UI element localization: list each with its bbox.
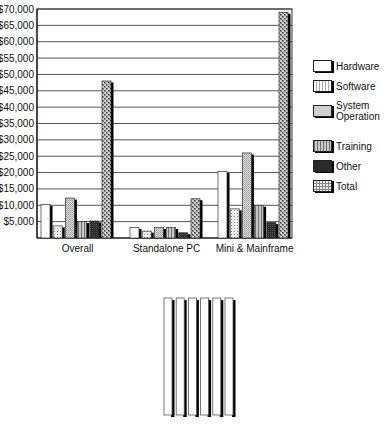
legend-item-system-operation: System Operation bbox=[313, 100, 380, 122]
legend-swatch-hardware bbox=[313, 60, 332, 72]
x-category-label: Overall bbox=[62, 243, 94, 254]
bars bbox=[41, 12, 291, 238]
legend-label: System Operation bbox=[336, 100, 380, 122]
legend-item-hardware: Hardware bbox=[313, 60, 379, 72]
bottom-figure-bars bbox=[164, 298, 236, 417]
y-tick-label: $10,000 bbox=[0, 200, 34, 211]
y-tick-label: $70,000 bbox=[0, 4, 34, 15]
bar bbox=[167, 228, 176, 238]
legend-label: Total bbox=[336, 181, 357, 192]
y-tick-label: $60,000 bbox=[0, 36, 34, 47]
legend-swatch-other bbox=[313, 160, 332, 172]
legend-label: Hardware bbox=[336, 61, 379, 72]
legend-label: Training bbox=[336, 141, 372, 152]
bar bbox=[102, 81, 111, 238]
bar bbox=[41, 204, 50, 238]
bar bbox=[230, 209, 239, 238]
bottom-bar bbox=[188, 298, 196, 415]
bar bbox=[255, 205, 264, 238]
bar bbox=[78, 222, 87, 238]
y-tick-label: $50,000 bbox=[0, 69, 34, 80]
y-tick-label: $15,000 bbox=[0, 183, 34, 194]
y-tick-label: $55,000 bbox=[0, 53, 34, 64]
bar bbox=[191, 199, 200, 238]
chart-container: $5,000$10,000$15,000$20,000$25,000$30,00… bbox=[0, 0, 389, 435]
bottom-bar bbox=[176, 298, 184, 415]
bottom-bar bbox=[225, 298, 233, 415]
legend-swatch-total bbox=[313, 180, 332, 192]
legend-item-other: Other bbox=[313, 160, 361, 172]
bar bbox=[179, 233, 188, 238]
bar bbox=[154, 228, 163, 238]
legend-swatch-system-operation bbox=[313, 105, 332, 117]
x-category-label: Standalone PC bbox=[133, 243, 200, 254]
y-tick-label: $65,000 bbox=[0, 20, 34, 31]
y-tick-label: $25,000 bbox=[0, 151, 34, 162]
legend-label: Software bbox=[336, 81, 375, 92]
legend-label-line2: Operation bbox=[336, 111, 380, 122]
bottom-bar bbox=[201, 298, 209, 415]
y-tick-label: $40,000 bbox=[0, 102, 34, 113]
y-tick-label: $45,000 bbox=[0, 85, 34, 96]
x-axis-category-labels: OverallStandalone PCMini & Mainframe bbox=[62, 243, 294, 254]
legend-label-line1: System bbox=[336, 100, 369, 111]
legend-item-software: Software bbox=[313, 80, 375, 92]
legend-swatch-training bbox=[313, 140, 332, 152]
y-tick-label: $35,000 bbox=[0, 118, 34, 129]
bar bbox=[65, 198, 74, 238]
x-category-label: Mini & Mainframe bbox=[216, 243, 294, 254]
legend-item-total: Total bbox=[313, 180, 357, 192]
bar bbox=[279, 12, 288, 238]
bar bbox=[90, 221, 99, 238]
bar bbox=[130, 228, 139, 238]
bar bbox=[53, 226, 62, 238]
y-tick-label: $20,000 bbox=[0, 167, 34, 178]
bar bbox=[218, 172, 227, 238]
bar bbox=[242, 153, 251, 238]
y-tick-label: $5,000 bbox=[3, 216, 34, 227]
legend-label: Other bbox=[336, 161, 361, 172]
y-axis-tick-labels: $5,000$10,000$15,000$20,000$25,000$30,00… bbox=[0, 4, 34, 228]
bottom-bar bbox=[164, 298, 172, 415]
bar bbox=[267, 223, 276, 238]
legend-item-training: Training bbox=[313, 140, 372, 152]
bar bbox=[142, 231, 151, 238]
legend-swatch-software bbox=[313, 80, 332, 92]
bottom-bar bbox=[213, 298, 221, 415]
y-tick-label: $30,000 bbox=[0, 134, 34, 145]
